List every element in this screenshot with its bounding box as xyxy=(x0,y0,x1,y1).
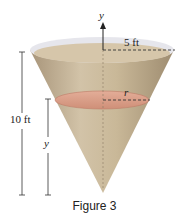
height-label: 10 ft xyxy=(10,113,30,125)
y-axis-arrowhead xyxy=(100,22,106,29)
y-axis-label: y xyxy=(99,9,104,21)
cone-diagram xyxy=(0,0,189,216)
slice-height-label: y xyxy=(44,137,49,149)
figure-caption: Figure 3 xyxy=(0,199,189,213)
cone-top-surface xyxy=(34,43,170,63)
slice-radius-label: r xyxy=(124,86,128,98)
top-radius-label: 5 ft xyxy=(124,36,139,48)
cone-body xyxy=(30,50,174,193)
